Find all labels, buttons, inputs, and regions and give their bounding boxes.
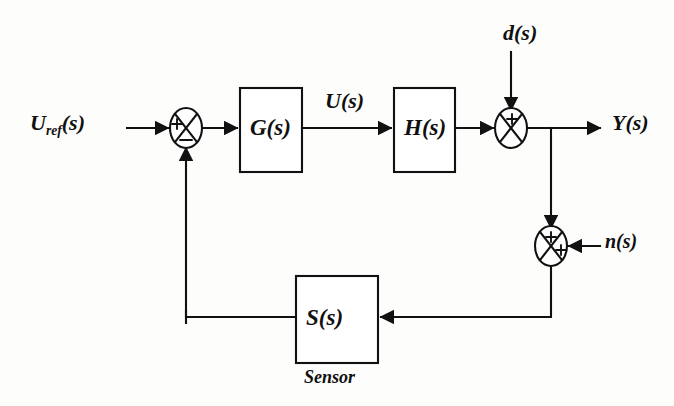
label-uref-base: U [30,110,46,135]
label-uref: Uref(s) [30,112,85,138]
label-uref-subscript: ref [46,123,62,138]
summing-junction-2 [495,108,527,148]
label-block-g: G(s) [250,116,291,139]
label-uref-suffix: (s) [62,110,85,135]
label-block-s: S(s) [306,306,343,329]
label-block-h: H(s) [404,116,446,139]
label-d: d(s) [503,22,537,44]
block-diagram-svg [0,0,674,406]
wire-sensor-to-sum1 [186,148,296,317]
label-u: U(s) [325,90,364,112]
summing-junction-1 [170,108,202,148]
wire-sum3-to-sensor [381,266,551,317]
block-diagram-canvas: Uref(s) G(s) U(s) H(s) d(s) Y(s) n(s) S(… [0,0,674,406]
label-y: Y(s) [612,112,649,134]
label-sensor-caption: Sensor [304,368,355,386]
label-n: n(s) [605,231,637,251]
